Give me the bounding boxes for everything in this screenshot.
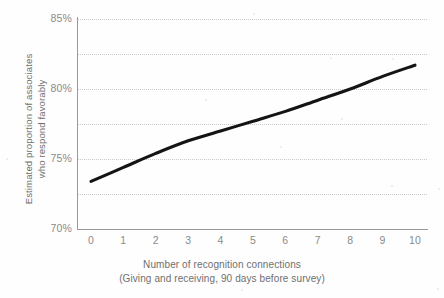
- gridline-85: [78, 19, 427, 20]
- x-tick-label-8: 8: [337, 234, 363, 246]
- chart-container: Estimated proportion of associates who r…: [0, 0, 444, 298]
- x-axis-line: [77, 229, 428, 230]
- x-axis-title-line1: Number of recognition connections: [0, 258, 444, 272]
- y-tick-label-75pct: 75%: [36, 153, 72, 164]
- scan-speckle: [253, 13, 255, 15]
- x-tick-label-10: 10: [402, 234, 428, 246]
- x-axis-title: Number of recognition connections (Givin…: [0, 258, 444, 286]
- x-axis-tick-labels: 012345678910: [0, 234, 444, 250]
- x-tick-label-1: 1: [110, 234, 136, 246]
- x-tick-label-5: 5: [240, 234, 266, 246]
- x-axis-title-line2: (Giving and receiving, 90 days before su…: [0, 272, 444, 286]
- x-tick-label-4: 4: [208, 234, 234, 246]
- scan-speckle: [438, 188, 440, 190]
- x-tick-label-7: 7: [305, 234, 331, 246]
- gridline-72-5: [78, 194, 427, 195]
- y-tick-label-85pct: 85%: [36, 13, 72, 24]
- gridline-75: [78, 159, 427, 160]
- scan-speckle: [437, 288, 439, 290]
- scan-speckle: [392, 58, 394, 60]
- x-tick-label-2: 2: [143, 234, 169, 246]
- y-axis-line: [77, 17, 78, 230]
- scan-speckle: [205, 99, 207, 101]
- y-tick-label-80pct: 80%: [36, 83, 72, 94]
- y-axis-tick-labels: 70%75%80%85%: [30, 0, 72, 298]
- scan-speckle: [138, 272, 140, 274]
- x-tick-label-6: 6: [272, 234, 298, 246]
- x-tick-label-0: 0: [78, 234, 104, 246]
- scan-speckle: [330, 57, 332, 59]
- x-tick-label-9: 9: [370, 234, 396, 246]
- gridline-80: [78, 89, 427, 90]
- scan-speckle: [391, 185, 393, 187]
- gridline-77-5: [78, 124, 427, 125]
- y-tick-label-70pct: 70%: [36, 223, 72, 234]
- scan-speckle: [280, 146, 282, 148]
- x-tick-label-3: 3: [175, 234, 201, 246]
- gridline-82-5: [78, 54, 427, 55]
- scan-speckle: [241, 289, 243, 291]
- plot-area: [78, 19, 427, 229]
- scan-speckle: [341, 118, 343, 120]
- scan-speckle: [6, 158, 8, 160]
